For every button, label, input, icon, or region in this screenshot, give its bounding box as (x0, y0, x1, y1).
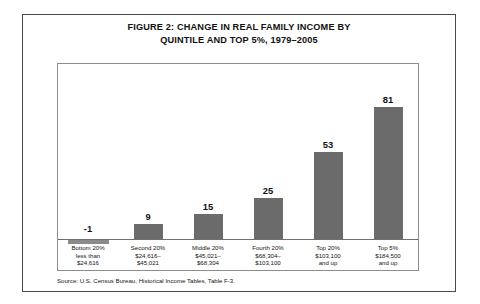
x-axis-label-3: Middle 20%$45,021–$68,304 (178, 244, 238, 267)
figure-page: FIGURE 2: CHANGE IN REAL FAMILY INCOME B… (22, 14, 456, 292)
x-axis-label-3-line3: $68,304 (178, 259, 238, 267)
chart-plot-frame: -1Bottom 20%less than$24,6169Second 20%$… (57, 63, 419, 271)
x-axis-label-4-line2: $68,304– (238, 252, 298, 260)
bar-value-label-1: -1 (58, 223, 118, 234)
bar-value-label-5: 53 (298, 139, 358, 150)
x-axis-label-1-line3: $24,616 (58, 259, 118, 267)
figure-title: FIGURE 2: CHANGE IN REAL FAMILY INCOME B… (23, 21, 455, 46)
bar-6 (374, 107, 403, 239)
bar-5 (314, 152, 343, 239)
bar-value-label-6: 81 (358, 94, 418, 105)
figure-title-line2: QUINTILE AND TOP 5%, 1979–2005 (23, 34, 455, 47)
x-axis-label-2: Second 20%$24,616–$45,021 (118, 244, 178, 267)
bar-4 (254, 198, 283, 239)
bar-3 (194, 214, 223, 239)
x-axis-label-4-line1: Fourth 20% (238, 244, 298, 252)
figure-title-line1: FIGURE 2: CHANGE IN REAL FAMILY INCOME B… (128, 22, 351, 32)
x-axis-label-3-line1: Middle 20% (178, 244, 238, 252)
x-axis-label-5-line2: $103,100 (298, 252, 358, 260)
x-axis-label-5-line1: Top 20% (298, 244, 358, 252)
x-axis-label-2-line3: $45,021 (118, 259, 178, 267)
bar-value-label-3: 15 (178, 201, 238, 212)
x-axis-label-5: Top 20%$103,100and up (298, 244, 358, 267)
x-axis-label-6-line2: $184,500 (358, 252, 418, 260)
x-axis-label-1-line1: Bottom 20% (58, 244, 118, 252)
bar-2 (134, 224, 163, 239)
chart-plot-area: -1Bottom 20%less than$24,6169Second 20%$… (58, 64, 418, 270)
x-axis-label-6-line3: and up (358, 259, 418, 267)
source-note: Source: U.S. Census Bureau, Historical I… (57, 277, 235, 284)
x-axis-label-5-line3: and up (298, 259, 358, 267)
x-axis-label-2-line1: Second 20% (118, 244, 178, 252)
bar-value-label-4: 25 (238, 185, 298, 196)
x-axis-label-3-line2: $45,021– (178, 252, 238, 260)
x-axis-label-4-line3: $103,100 (238, 259, 298, 267)
bar-value-label-2: 9 (118, 211, 178, 222)
x-axis-label-4: Fourth 20%$68,304–$103,100 (238, 244, 298, 267)
x-axis-label-6-line1: Top 5% (358, 244, 418, 252)
x-axis-label-6: Top 5%$184,500and up (358, 244, 418, 267)
x-axis-label-1-line2: less than (58, 252, 118, 260)
x-axis-line (58, 239, 418, 240)
x-axis-label-1: Bottom 20%less than$24,616 (58, 244, 118, 267)
x-axis-label-2-line2: $24,616– (118, 252, 178, 260)
